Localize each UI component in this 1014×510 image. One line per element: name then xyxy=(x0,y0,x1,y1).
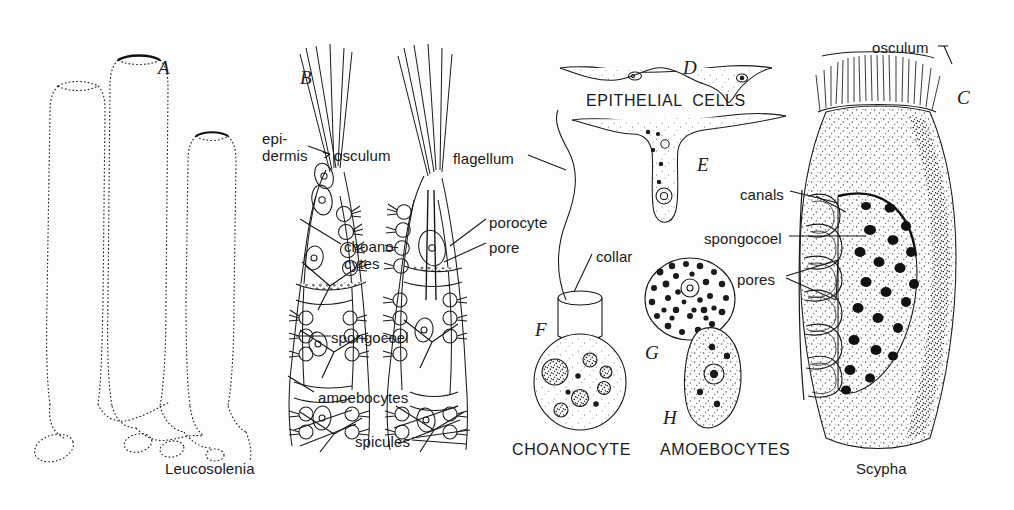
caption-amoebocytes: AMOEBOCYTES xyxy=(660,441,790,458)
label-osculum-c: osculum xyxy=(872,40,929,56)
leader-porocyte xyxy=(450,219,486,246)
caption-leucosolenia: Leucosolenia xyxy=(165,461,255,477)
leader-amoebocytes xyxy=(288,376,314,392)
label-spicules: spicules xyxy=(355,434,410,450)
label-spongocoel-b: spongocoel xyxy=(331,330,409,346)
label-pore: pore xyxy=(489,240,519,256)
caption-epithelial-cells: EPITHELIAL CELLS xyxy=(586,92,746,109)
epithelial-cell-process-icon xyxy=(572,114,786,223)
panel-letter-h: H xyxy=(663,408,677,429)
label-amoebocytes-b: amoebocytes xyxy=(318,390,408,406)
sponge-colony-icon xyxy=(31,56,251,467)
leader-flagellum xyxy=(528,155,566,170)
label-porocyte: porocyte xyxy=(489,215,547,231)
label-flagellum: flagellum xyxy=(453,151,514,167)
amoebocyte-granular-icon xyxy=(645,258,735,340)
panel-letter-b: B xyxy=(300,68,312,89)
label-epidermis: epi- dermis xyxy=(262,130,308,165)
leader-spicules2 xyxy=(412,440,466,444)
panel-letter-d: D xyxy=(683,58,697,79)
leader-osculum-c xyxy=(944,46,952,64)
label-collar: collar xyxy=(596,249,632,265)
panel-letter-f: F xyxy=(535,320,547,341)
label-canals: canals xyxy=(740,187,784,203)
label-choanocytes: choano- cytes xyxy=(344,238,399,273)
leader-choanocytes xyxy=(300,219,341,244)
sponge-anatomy-figure: epi- dermis osculum choano- cytes spongo… xyxy=(0,0,1014,510)
leader-collar xyxy=(574,254,592,292)
panel-letter-c: C xyxy=(957,88,970,109)
panel-letter-a: A xyxy=(158,58,170,79)
label-pores: pores xyxy=(737,272,775,288)
panel-letter-e: E xyxy=(697,155,709,176)
caption-choanocyte: CHOANOCYTE xyxy=(512,441,631,458)
panel-letter-g: G xyxy=(645,343,659,364)
scypha-body-icon xyxy=(799,52,956,449)
caption-scypha: Scypha xyxy=(856,461,907,477)
label-spongocoel-c: spongocoel xyxy=(704,231,782,247)
choanocyte-icon xyxy=(534,110,626,430)
label-osculum-b: osculum xyxy=(334,148,391,164)
amoebocyte-nucleated-icon xyxy=(685,328,741,428)
